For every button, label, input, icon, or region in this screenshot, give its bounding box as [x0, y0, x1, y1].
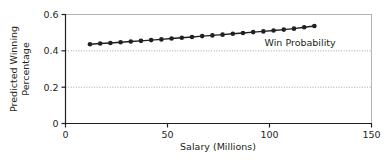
data-point[interactable] [128, 39, 133, 44]
data-point[interactable] [210, 33, 215, 38]
x-tick-label-0: 0 [62, 129, 68, 140]
data-point[interactable] [200, 34, 205, 39]
x-tick-label-50: 50 [161, 129, 173, 140]
data-point[interactable] [220, 32, 225, 37]
y-tick-label-0.6: 0.6 [43, 9, 58, 20]
data-point[interactable] [98, 41, 103, 46]
y-axis-title-line1: Predicted Winning [8, 26, 19, 112]
y-axis-title-line2: Percentage [20, 42, 31, 96]
y-tick-label-0.2: 0.2 [43, 82, 58, 93]
y-tick-label-0.4: 0.4 [43, 45, 58, 56]
data-point[interactable] [159, 37, 164, 42]
data-point[interactable] [230, 31, 235, 36]
data-point[interactable] [292, 26, 297, 31]
data-point[interactable] [302, 25, 307, 30]
chart-container: 00.20.40.6 050100150 Win Probability Sal… [0, 0, 392, 160]
chart-background [0, 0, 392, 160]
data-point[interactable] [169, 36, 174, 41]
series-annotation-win-probability: Win Probability [265, 37, 336, 48]
x-tick-label-150: 150 [362, 129, 380, 140]
data-point[interactable] [149, 38, 154, 43]
data-point[interactable] [139, 39, 144, 44]
data-point[interactable] [118, 40, 123, 45]
data-point[interactable] [312, 24, 317, 29]
data-point[interactable] [251, 30, 256, 35]
data-point[interactable] [271, 28, 276, 33]
data-point[interactable] [241, 31, 246, 36]
data-point[interactable] [281, 27, 286, 32]
x-axis-title: Salary (Millions) [180, 141, 256, 152]
data-point[interactable] [261, 29, 266, 34]
data-point[interactable] [179, 35, 184, 40]
data-point[interactable] [108, 41, 113, 46]
x-tick-label-100: 100 [260, 129, 278, 140]
win-probability-line-chart: 00.20.40.6 050100150 Win Probability Sal… [0, 0, 392, 160]
y-tick-label-0: 0 [52, 118, 58, 129]
data-point[interactable] [190, 35, 195, 40]
data-point[interactable] [88, 42, 93, 47]
